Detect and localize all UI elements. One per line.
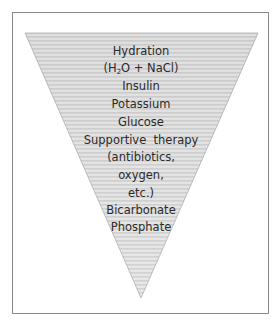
label-h2o-nacl: (H2O + NaCl): [0, 61, 280, 75]
label-etc: etc.): [0, 186, 280, 200]
triangle-labels: Hydration (H2O + NaCl) Insulin Potassium…: [0, 0, 280, 325]
label-phosphate: Phosphate: [0, 220, 280, 234]
label-insulin: Insulin: [0, 79, 280, 93]
label-glucose: Glucose: [0, 115, 280, 129]
label-supportive-therapy: Supportive therapy: [0, 133, 280, 147]
label-h2o-prefix: (H: [104, 61, 117, 75]
label-hydration: Hydration: [0, 44, 280, 58]
label-h2o-suffix: O + NaCl): [121, 61, 178, 75]
label-bicarbonate: Bicarbonate: [0, 203, 280, 217]
label-antibiotics: (antibiotics,: [0, 150, 280, 164]
label-potassium: Potassium: [0, 97, 280, 111]
label-oxygen: oxygen,: [0, 168, 280, 182]
